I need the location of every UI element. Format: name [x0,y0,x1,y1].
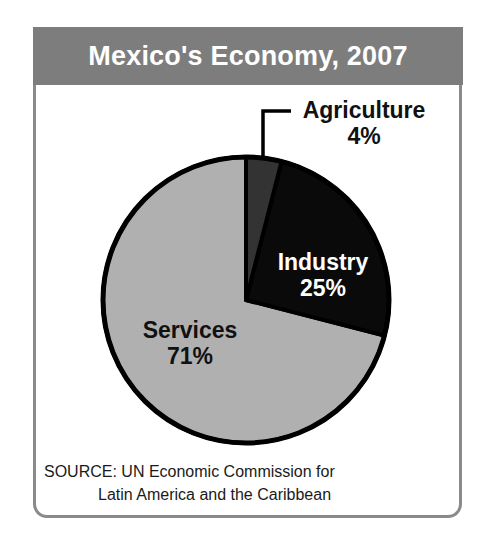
slice-label-agriculture: Agriculture 4% [279,98,449,150]
page-title: Mexico's Economy, 2007 [88,41,407,72]
source-note: SOURCE: UN Economic Commission for Latin… [44,460,444,506]
slice-label-services: Services 71% [124,318,256,370]
slice-label-agriculture-value: 4% [279,124,449,150]
slice-label-services-name: Services [124,318,256,344]
source-note-line-1: SOURCE: UN Economic Commission for [44,460,444,483]
chart-body-panel [33,85,462,518]
slice-label-industry: Industry 25% [257,250,389,302]
slice-label-industry-name: Industry [257,250,389,276]
slice-label-agriculture-name: Agriculture [279,98,449,124]
slice-label-services-value: 71% [124,344,256,370]
slice-label-industry-value: 25% [257,276,389,302]
source-note-line-2: Latin America and the Caribbean [44,483,444,506]
figure-panel: Mexico's Economy, 2007 Agriculture 4% In… [0,0,493,541]
chart-title-banner: Mexico's Economy, 2007 [33,27,463,85]
